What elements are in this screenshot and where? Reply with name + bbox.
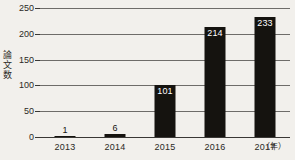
bar-2013[interactable]: 1 xyxy=(55,136,76,138)
y-tick-label-150: 150 xyxy=(0,56,34,65)
bar-slot-2016: 214 xyxy=(190,8,240,137)
bar-value-2016: 214 xyxy=(207,28,223,38)
bar-value-2013: 1 xyxy=(62,125,67,135)
x-tick-label-2013: 2013 xyxy=(40,142,90,152)
x-axis-line xyxy=(40,137,290,138)
bar-slot-2014: 6 xyxy=(90,8,140,137)
y-tick-label-200: 200 xyxy=(0,30,34,39)
bar-slot-2015: 101 xyxy=(140,8,190,137)
y-tick-label-50: 50 xyxy=(0,107,34,116)
x-axis-unit-label: （年） xyxy=(262,142,286,152)
bar-2014[interactable]: 6 xyxy=(105,134,126,137)
x-tick-label-2015: 2015 xyxy=(140,142,190,152)
bar-2017[interactable]: 233 xyxy=(255,17,276,137)
bar-slot-2013: 1 xyxy=(40,8,90,137)
x-axis: 2013 2014 2015 2016 2017 xyxy=(40,142,290,154)
bar-value-2014: 6 xyxy=(112,123,117,133)
y-tick-label-0: 0 xyxy=(0,133,34,142)
bar-chart: 論 文 数 250 200 150 100 50 0 1 6 xyxy=(0,0,295,160)
y-tick-label-100: 100 xyxy=(0,81,34,90)
bar-value-2015: 101 xyxy=(157,86,173,96)
bar-slot-2017: 233 xyxy=(240,8,290,137)
plot-area: 1 6 101 214 233 xyxy=(40,8,290,137)
bar-2015[interactable]: 101 xyxy=(155,85,176,137)
x-tick-label-2014: 2014 xyxy=(90,142,140,152)
x-tick-label-2016: 2016 xyxy=(190,142,240,152)
bar-value-2017: 233 xyxy=(257,18,273,28)
bar-2016[interactable]: 214 xyxy=(205,27,226,137)
y-tick-label-250: 250 xyxy=(0,4,34,13)
